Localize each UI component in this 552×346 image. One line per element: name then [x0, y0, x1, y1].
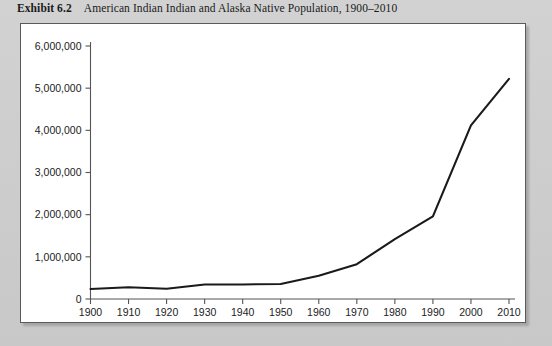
y-tick-label: 2,000,000 [35, 208, 82, 220]
x-tick-label: 1930 [193, 306, 217, 318]
line-chart: 01,000,0002,000,0003,000,0004,000,0005,0… [21, 24, 527, 324]
x-tick-label: 1980 [383, 306, 407, 318]
y-tick-label: 6,000,000 [35, 40, 82, 52]
x-tick-label: 1970 [345, 306, 369, 318]
page-background: Exhibit 6.2American Indian Indian and Al… [0, 0, 552, 346]
y-tick-label: 5,000,000 [35, 82, 82, 94]
x-tick-label: 1950 [269, 306, 293, 318]
exhibit-number: Exhibit 6.2 [17, 2, 72, 14]
y-tick-label: 1,000,000 [35, 251, 82, 263]
y-tick-label: 3,000,000 [35, 166, 82, 178]
x-tick-label: 1940 [231, 306, 255, 318]
x-tick-label: 1900 [79, 306, 103, 318]
exhibit-title: American Indian Indian and Alaska Native… [84, 2, 397, 14]
x-tick-label: 1960 [307, 306, 331, 318]
y-tick-label: 0 [76, 293, 82, 305]
x-tick-label: 1990 [421, 306, 445, 318]
x-tick-label: 1910 [117, 306, 141, 318]
exhibit-caption: Exhibit 6.2American Indian Indian and Al… [17, 2, 537, 20]
x-tick-label: 2000 [459, 306, 483, 318]
x-axis-ticks: 1900191019201930194019501960197019801990… [79, 299, 521, 318]
population-line [91, 79, 510, 289]
y-axis-ticks: 01,000,0002,000,0003,000,0004,000,0005,0… [35, 40, 91, 305]
x-tick-label: 1920 [155, 306, 179, 318]
y-tick-label: 4,000,000 [35, 124, 82, 136]
chart-panel: 01,000,0002,000,0003,000,0004,000,0005,0… [20, 23, 526, 323]
x-tick-label: 2010 [497, 306, 521, 318]
